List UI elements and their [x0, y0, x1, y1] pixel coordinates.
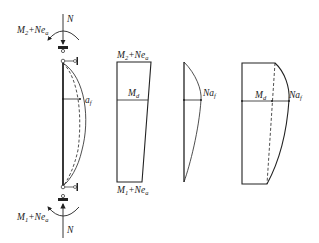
- deflected-shape-solid: [63, 63, 86, 186]
- moment-top-label: M2+Nea: [16, 25, 48, 36]
- second-order-curve: [184, 62, 201, 182]
- axial-load-bottom-label: N: [66, 225, 74, 235]
- moment-bottom-label: M1+Nea: [16, 212, 48, 223]
- column-panel: N M2+Nea af: [16, 14, 93, 238]
- first-order-moment-panel: M2+Nea Md M1+Nea: [116, 50, 151, 196]
- md-label: Md: [254, 90, 267, 101]
- na-label: Naf: [288, 90, 303, 101]
- top-moment-label: M2+Nea: [116, 50, 148, 61]
- bottom-pin-support: [58, 183, 78, 201]
- total-moment-panel: Md Naf: [241, 63, 303, 184]
- mid-moment-label: Md: [127, 88, 140, 99]
- moment-top-arc: [48, 31, 79, 40]
- trapezoid-moment-diagram: [117, 62, 151, 182]
- deflection-label: af: [85, 95, 93, 106]
- deflected-shape-dashed: [63, 63, 80, 186]
- second-order-moment-panel: Naf: [183, 62, 217, 182]
- na-label: Naf: [202, 88, 217, 99]
- total-moment-outline: [242, 63, 289, 184]
- moment-diagram-figure: N M2+Nea af: [0, 0, 319, 243]
- axial-load-top-label: N: [66, 14, 74, 24]
- bottom-moment-label: M1+Nea: [116, 185, 148, 196]
- dashed-first-order-line: [267, 63, 275, 184]
- top-pin-support: [58, 46, 78, 65]
- moment-bottom-arc: [48, 207, 79, 216]
